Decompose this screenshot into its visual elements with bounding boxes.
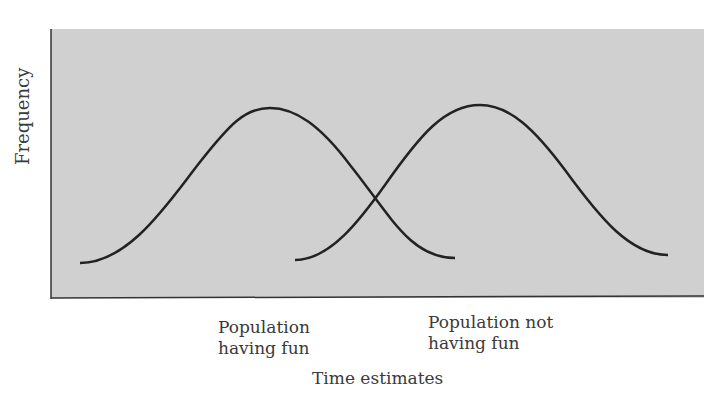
y-axis-label: Frequency [12, 68, 33, 165]
label-having-fun-line2: having fun [218, 338, 310, 358]
plot-background [51, 29, 704, 298]
label-having-fun-line1: Population [218, 317, 310, 337]
label-not-having-fun-line2: having fun [428, 333, 520, 353]
x-axis-label: Time estimates [312, 368, 443, 388]
label-not-having-fun-line1: Population not [428, 312, 553, 332]
chart-plot [0, 0, 725, 406]
